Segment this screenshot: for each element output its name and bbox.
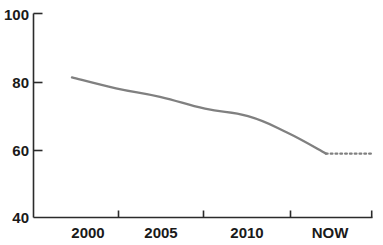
x-tick-label-2010: 2010 [230,224,263,241]
x-tick-label-now: NOW [312,224,350,241]
y-tick-label-80: 80 [12,74,29,91]
x-tick-label-2005: 2005 [144,224,177,241]
line-chart: 100 80 60 40 2000 2005 2010 NOW [0,0,383,245]
x-tick-label-2000: 2000 [71,224,104,241]
y-tick-label-40: 40 [12,209,29,226]
y-tick-label-100: 100 [4,6,29,23]
chart-canvas: 100 80 60 40 2000 2005 2010 NOW [0,0,383,245]
y-tick-label-60: 60 [12,142,29,159]
series-line-trend [72,77,326,153]
